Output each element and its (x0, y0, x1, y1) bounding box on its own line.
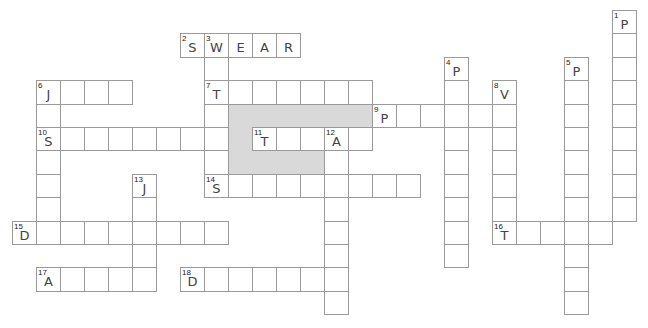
crossword-cell[interactable] (324, 291, 349, 315)
crossword-cell[interactable] (204, 127, 229, 151)
crossword-cell[interactable]: 11T (252, 127, 277, 151)
crossword-cell[interactable] (444, 150, 469, 174)
crossword-cell[interactable] (564, 267, 589, 291)
crossword-cell[interactable] (132, 244, 157, 268)
crossword-cell[interactable] (444, 244, 469, 268)
crossword-cell[interactable] (228, 174, 253, 198)
crossword-cell[interactable] (108, 267, 133, 291)
crossword-cell[interactable] (204, 150, 229, 174)
crossword-cell[interactable] (156, 221, 181, 245)
crossword-cell[interactable] (324, 221, 349, 245)
crossword-cell[interactable] (612, 127, 637, 151)
crossword-cell[interactable] (396, 174, 421, 198)
crossword-cell[interactable]: 3W (204, 33, 229, 57)
crossword-cell[interactable] (564, 127, 589, 151)
crossword-cell[interactable] (612, 174, 637, 198)
crossword-cell[interactable] (36, 197, 61, 221)
crossword-cell[interactable]: 17A (36, 267, 61, 291)
crossword-cell[interactable] (612, 104, 637, 128)
crossword-cell[interactable] (228, 267, 253, 291)
crossword-cell[interactable] (516, 221, 541, 245)
crossword-cell[interactable] (492, 197, 517, 221)
crossword-cell[interactable]: 5P (564, 57, 589, 81)
crossword-cell[interactable] (36, 174, 61, 198)
crossword-cell[interactable] (36, 221, 61, 245)
crossword-cell[interactable]: 6J (36, 80, 61, 104)
crossword-cell[interactable] (204, 57, 229, 81)
crossword-cell[interactable] (564, 104, 589, 128)
crossword-cell[interactable] (444, 127, 469, 151)
crossword-cell[interactable] (84, 221, 109, 245)
crossword-cell[interactable] (372, 174, 397, 198)
crossword-cell[interactable] (300, 174, 325, 198)
crossword-cell[interactable] (612, 33, 637, 57)
crossword-cell[interactable] (252, 174, 277, 198)
crossword-cell[interactable] (564, 174, 589, 198)
crossword-cell[interactable] (492, 174, 517, 198)
crossword-cell[interactable] (612, 197, 637, 221)
crossword-cell[interactable]: 14S (204, 174, 229, 198)
crossword-cell[interactable] (276, 80, 301, 104)
crossword-cell[interactable] (84, 127, 109, 151)
crossword-cell[interactable] (252, 267, 277, 291)
crossword-cell[interactable] (540, 221, 565, 245)
crossword-cell[interactable] (564, 80, 589, 104)
crossword-cell[interactable] (324, 197, 349, 221)
crossword-cell[interactable]: 1P (612, 10, 637, 34)
crossword-cell[interactable] (108, 80, 133, 104)
crossword-cell[interactable] (324, 244, 349, 268)
crossword-cell[interactable] (300, 267, 325, 291)
crossword-cell[interactable] (60, 267, 85, 291)
crossword-cell[interactable] (156, 127, 181, 151)
crossword-cell[interactable] (84, 80, 109, 104)
crossword-cell[interactable] (564, 221, 589, 245)
crossword-cell[interactable] (132, 127, 157, 151)
crossword-cell[interactable] (444, 174, 469, 198)
crossword-cell[interactable] (276, 174, 301, 198)
crossword-cell[interactable] (612, 150, 637, 174)
crossword-cell[interactable]: 4P (444, 57, 469, 81)
crossword-cell[interactable] (444, 104, 469, 128)
crossword-cell[interactable] (300, 127, 325, 151)
crossword-cell[interactable]: 7T (204, 80, 229, 104)
crossword-cell[interactable]: R (276, 33, 301, 57)
crossword-cell[interactable] (60, 127, 85, 151)
crossword-cell[interactable] (132, 267, 157, 291)
crossword-cell[interactable] (564, 150, 589, 174)
crossword-cell[interactable] (180, 221, 205, 245)
crossword-cell[interactable] (468, 104, 493, 128)
crossword-cell[interactable] (420, 104, 445, 128)
crossword-cell[interactable] (492, 127, 517, 151)
crossword-cell[interactable] (36, 150, 61, 174)
crossword-cell[interactable] (204, 104, 229, 128)
crossword-cell[interactable] (300, 80, 325, 104)
crossword-cell[interactable] (564, 244, 589, 268)
crossword-cell[interactable]: 10S (36, 127, 61, 151)
crossword-cell[interactable] (84, 267, 109, 291)
crossword-cell[interactable] (348, 80, 373, 104)
crossword-cell[interactable] (492, 104, 517, 128)
crossword-cell[interactable]: 15D (12, 221, 37, 245)
crossword-cell[interactable] (324, 150, 349, 174)
crossword-cell[interactable] (132, 221, 157, 245)
crossword-cell[interactable]: A (252, 33, 277, 57)
crossword-cell[interactable]: 16T (492, 221, 517, 245)
crossword-cell[interactable] (612, 57, 637, 81)
crossword-cell[interactable] (348, 127, 373, 151)
crossword-cell[interactable] (180, 127, 205, 151)
crossword-cell[interactable] (108, 127, 133, 151)
crossword-cell[interactable]: 2S (180, 33, 205, 57)
crossword-cell[interactable] (276, 267, 301, 291)
crossword-cell[interactable]: 13J (132, 174, 157, 198)
crossword-cell[interactable] (60, 221, 85, 245)
crossword-cell[interactable] (204, 221, 229, 245)
crossword-cell[interactable] (228, 80, 253, 104)
crossword-cell[interactable] (564, 197, 589, 221)
crossword-cell[interactable] (444, 221, 469, 245)
crossword-cell[interactable] (588, 221, 613, 245)
crossword-cell[interactable]: 18D (180, 267, 205, 291)
crossword-cell[interactable] (396, 104, 421, 128)
crossword-cell[interactable]: E (228, 33, 253, 57)
crossword-cell[interactable] (60, 80, 85, 104)
crossword-cell[interactable] (252, 80, 277, 104)
